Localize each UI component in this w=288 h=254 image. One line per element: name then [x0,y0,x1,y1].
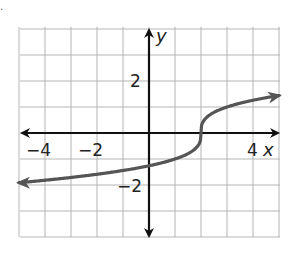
y-axis-label: y [155,25,167,46]
x-tick-label: −2 [78,140,103,160]
x-axis-label: x [262,139,274,160]
y-tick-label: 2 [130,71,141,91]
y-tick-label: −2 [117,176,142,196]
graph: −4 −2 4 x 2 −2 y [0,0,288,254]
x-tick-label: −4 [26,140,51,160]
x-tick-label: 4 [247,140,258,160]
